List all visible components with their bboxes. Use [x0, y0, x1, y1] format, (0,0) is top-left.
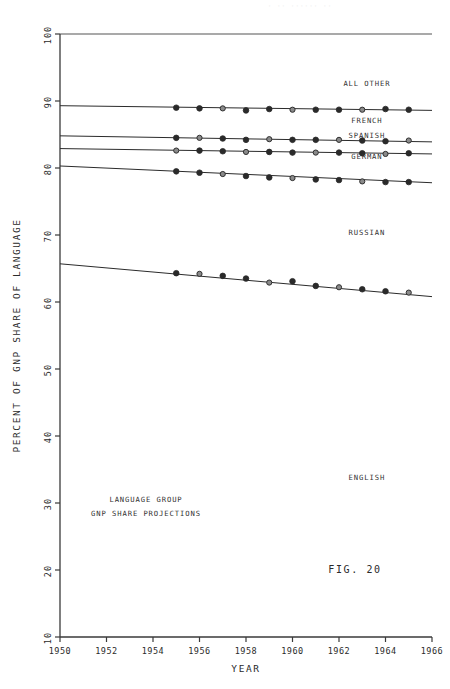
data-point [406, 179, 412, 185]
note-line-2: GNP SHARE PROJECTIONS [91, 509, 201, 518]
data-point [336, 177, 342, 183]
data-point [197, 106, 203, 112]
x-tick-label: 1964 [374, 646, 396, 656]
data-point [383, 151, 388, 156]
data-point [383, 288, 389, 294]
data-point [290, 107, 295, 112]
data-point [359, 286, 365, 292]
data-point [290, 278, 296, 284]
series-label-french: FRENCH [351, 116, 382, 125]
series-all-other: ALL OTHER [60, 79, 432, 113]
data-point [243, 173, 249, 179]
data-point [313, 177, 319, 183]
figure-caption: FIG. 20 [328, 564, 381, 575]
data-point [336, 150, 342, 156]
data-point [266, 106, 272, 112]
series-label-all-other: ALL OTHER [343, 79, 390, 88]
series-label-german: GERMAN [351, 152, 382, 161]
x-tick-label: 1950 [49, 646, 71, 656]
series-label-english: ENGLISH [349, 473, 386, 482]
data-point [383, 106, 389, 112]
y-tick-label: 50 [43, 364, 53, 376]
data-point [360, 107, 365, 112]
data-point [220, 171, 225, 176]
series-label-russian: RUSSIAN [349, 228, 386, 237]
x-tick-label: 1956 [188, 646, 210, 656]
x-axis-title: YEAR [231, 663, 260, 674]
y-tick-label: 100 [43, 26, 53, 44]
x-tick-label: 1954 [142, 646, 164, 656]
data-point [406, 150, 412, 156]
y-tick-label: 30 [43, 498, 53, 510]
x-tick-label: 1966 [421, 646, 443, 656]
data-point [360, 179, 365, 184]
y-tick-label: 60 [43, 297, 53, 309]
data-point [220, 106, 225, 111]
y-tick-label: 40 [43, 431, 53, 443]
x-tick-label: 1952 [95, 646, 117, 656]
data-point [290, 150, 296, 156]
data-point [197, 271, 202, 276]
data-point [173, 105, 179, 111]
data-point [197, 135, 202, 140]
data-point [267, 280, 272, 285]
data-point [290, 175, 295, 180]
data-point [290, 137, 296, 143]
data-point [313, 150, 318, 155]
data-point [336, 107, 342, 113]
data-point [313, 137, 319, 143]
data-point [266, 149, 272, 155]
series-english: ENGLISH [349, 473, 386, 482]
y-tick-label: 90 [43, 96, 53, 108]
figure-container: · ·· ······ ··10203040506070809010019501… [0, 0, 450, 689]
data-point [173, 135, 179, 141]
data-point [173, 169, 179, 175]
y-tick-label: 70 [43, 230, 53, 242]
data-point [266, 175, 272, 181]
x-tick-label: 1958 [235, 646, 257, 656]
data-point [383, 179, 389, 185]
series-russian: RUSSIAN [60, 228, 432, 297]
data-point [243, 137, 249, 143]
data-point [406, 290, 411, 295]
chart-canvas: · ·· ······ ··10203040506070809010019501… [0, 0, 450, 689]
data-point [267, 137, 272, 142]
data-point [336, 137, 341, 142]
data-point [243, 276, 249, 282]
y-axis-title: PERCENT OF GNP SHARE OF LANGUAGE [11, 218, 22, 452]
x-tick-label: 1962 [328, 646, 350, 656]
data-point [173, 270, 179, 276]
y-tick-label: 20 [43, 565, 53, 577]
data-point [197, 170, 203, 176]
series-german: GERMAN [60, 152, 432, 185]
y-tick-label: 80 [43, 163, 53, 175]
data-point [174, 148, 179, 153]
data-point [313, 283, 319, 289]
data-point [406, 138, 411, 143]
data-point [243, 149, 248, 154]
data-point [243, 108, 249, 114]
data-point [313, 107, 319, 113]
note-line-1: LANGUAGE GROUP [109, 495, 182, 504]
data-point [406, 107, 412, 113]
data-point [197, 148, 203, 154]
data-point [220, 136, 226, 142]
scan-header-artifact: · ·· ······ ·· [268, 2, 333, 9]
x-tick-label: 1960 [281, 646, 303, 656]
data-point [220, 148, 226, 154]
series-label-spanish: SPANISH [349, 131, 386, 140]
y-tick-label: 10 [43, 632, 53, 644]
data-point [220, 273, 226, 279]
data-point [336, 285, 341, 290]
